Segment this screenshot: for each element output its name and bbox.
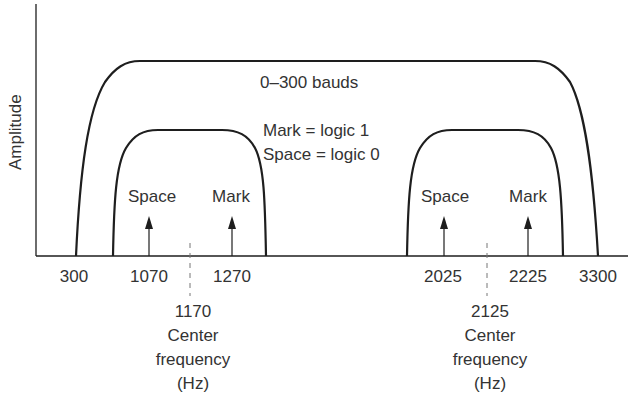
legend-space: Space = logic 0 (263, 146, 380, 163)
mark-label-high: Mark (509, 188, 547, 205)
legend-mark: Mark = logic 1 (263, 122, 369, 139)
space-label-high: Space (421, 188, 469, 205)
center-caption-1: Center (453, 324, 528, 348)
tick-1270: 1270 (213, 268, 251, 285)
space-arrow-high (440, 216, 448, 256)
center-caption-3: (Hz) (453, 372, 528, 396)
center-frequency-high: 2125 Center frequency (Hz) (453, 300, 528, 396)
space-label-low: Space (128, 188, 176, 205)
center-caption-2: frequency (156, 348, 231, 372)
mark-label-low: Mark (212, 188, 250, 205)
tick-300: 300 (60, 268, 88, 285)
mark-arrow-low (228, 216, 236, 256)
outer-band-label: 0–300 bauds (260, 74, 358, 91)
center-frequency-low: 1170 Center frequency (Hz) (156, 300, 231, 396)
center-caption-2: frequency (453, 348, 528, 372)
center-hz-high: 2125 (453, 300, 528, 324)
tick-2025: 2025 (424, 268, 462, 285)
tick-2225: 2225 (509, 268, 547, 285)
tick-1070: 1070 (130, 268, 168, 285)
mark-arrow-high (524, 216, 532, 256)
center-caption-1: Center (156, 324, 231, 348)
tick-3300: 3300 (579, 268, 617, 285)
y-axis-label: Amplitude (6, 94, 26, 170)
center-hz-low: 1170 (156, 300, 231, 324)
center-caption-3: (Hz) (156, 372, 231, 396)
space-arrow-low (145, 216, 153, 256)
